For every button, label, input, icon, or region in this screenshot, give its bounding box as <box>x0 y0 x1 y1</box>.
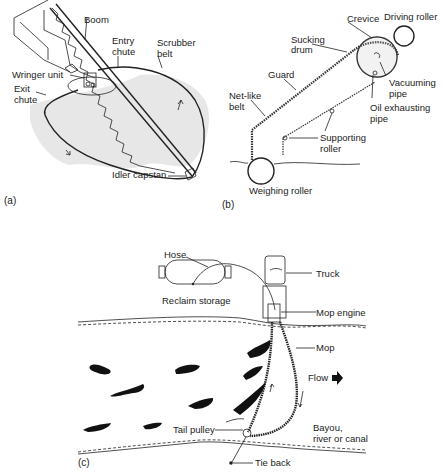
label-exit-chute-1: Exit <box>14 83 30 94</box>
label-wringer-unit: Wringer unit <box>12 69 63 80</box>
label-bayou-2: river or canal <box>313 433 368 444</box>
label-boom: Boom <box>84 14 109 25</box>
label-net-like-belt-2: belt <box>229 101 245 112</box>
label-vacuuming-pipe-1: Vacuuming <box>389 77 436 88</box>
oil-shading <box>30 75 209 169</box>
label-supporting-roller-1: Supporting <box>320 132 366 143</box>
label-exit-chute-2: chute <box>14 94 37 105</box>
label-vacuuming-pipe-2: pipe <box>389 88 407 99</box>
river-bank-top <box>78 317 366 326</box>
label-entry-chute-2: chute <box>112 46 135 57</box>
caption-b: (b) <box>222 199 234 210</box>
label-weighing-roller: Weighing roller <box>249 185 312 196</box>
caption-c: (c) <box>78 457 90 468</box>
driving-roller <box>394 26 414 46</box>
weighing-roller <box>248 158 274 184</box>
supporting-roller-2 <box>330 109 334 113</box>
label-scrubber-belt-2: belt <box>157 48 173 59</box>
label-guard: Guard <box>268 69 294 80</box>
label-bayou-1: Bayou, <box>313 422 343 433</box>
label-net-like-belt-1: Net-like <box>229 90 261 101</box>
tail-pulley-shape <box>243 429 251 437</box>
truck-bed <box>263 286 286 318</box>
label-crevice: Crevice <box>347 13 379 24</box>
label-hose: Hose <box>164 249 186 260</box>
label-idler-capstan: Idler capstan <box>112 169 166 180</box>
label-sucking-drum-2: drum <box>291 44 313 55</box>
label-supporting-roller-2: roller <box>320 143 341 154</box>
label-flow: Flow <box>308 372 328 383</box>
label-mop: Mop <box>316 342 334 353</box>
mop-engine-shape <box>268 304 280 322</box>
flow-arrow-icon <box>332 371 343 385</box>
panel-a-scrubber-belt-skimmer: Boom Entry chute Scrubber belt Wringer u… <box>4 0 209 206</box>
label-oil-exhausting-pipe-1: Oil exhausting <box>370 102 430 113</box>
label-oil-exhausting-pipe-2: pipe <box>370 113 388 124</box>
oil-slicks <box>83 340 270 432</box>
panel-c-rope-mop-skimmer: Hose Truck Reclaim storage Mop engine Mo… <box>78 249 368 468</box>
caption-a: (a) <box>4 195 16 206</box>
mop-loop <box>248 322 297 436</box>
label-tail-pulley: Tail pulley <box>173 424 215 435</box>
label-truck: Truck <box>316 268 340 279</box>
label-scrubber-belt-1: Scrubber <box>157 37 196 48</box>
label-entry-chute-1: Entry <box>112 35 134 46</box>
label-driving-roller: Driving roller <box>384 11 437 22</box>
label-tie-back: Tie back <box>255 457 291 468</box>
label-mop-engine: Mop engine <box>316 307 366 318</box>
label-reclaim-storage: Reclaim storage <box>162 295 231 306</box>
panel-b-sucking-drum-skimmer: Crevice Driving roller Sucking drum Guar… <box>222 11 437 210</box>
